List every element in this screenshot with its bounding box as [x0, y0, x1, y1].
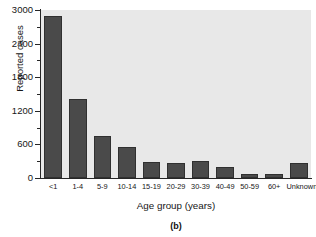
bar: [94, 136, 112, 178]
x-tick-label: Unknown: [286, 182, 311, 191]
x-tick-label: 1-4: [66, 182, 91, 191]
figure-panel-b: Reported cases 06001200180024003000 <11-…: [0, 0, 316, 237]
x-tick-label: 5-9: [90, 182, 115, 191]
bar: [118, 147, 136, 178]
bar: [69, 99, 87, 178]
bar-series: [41, 10, 311, 178]
y-tick-label: 0: [0, 172, 33, 183]
x-tick-label: 10-14: [115, 182, 140, 191]
x-tick-label: 30-39: [188, 182, 213, 191]
bar: [143, 162, 161, 178]
y-tick-label: 1800: [0, 71, 33, 82]
x-tick-label: 40-49: [213, 182, 238, 191]
x-tick-label: 60+: [262, 182, 287, 191]
bar: [192, 161, 210, 178]
x-tick-label: 20-29: [164, 182, 189, 191]
x-tick-label: <1: [41, 182, 66, 191]
y-tick-label: 2400: [0, 38, 33, 49]
x-tick-label: 15-19: [139, 182, 164, 191]
x-tick-label: 50-59: [237, 182, 262, 191]
y-axis-title: Reported cases: [14, 0, 25, 119]
x-axis-title: Age group (years): [41, 200, 311, 211]
bar: [44, 16, 62, 178]
bar: [167, 163, 185, 178]
y-tick-label: 600: [0, 138, 33, 149]
bar: [290, 163, 308, 178]
x-axis-line: [40, 178, 312, 179]
y-tick-label: 3000: [0, 4, 33, 15]
bar: [241, 174, 259, 178]
bar: [216, 167, 234, 178]
y-tick-label: 1200: [0, 105, 33, 116]
bar: [265, 174, 283, 178]
figure-caption: (b): [41, 221, 311, 231]
